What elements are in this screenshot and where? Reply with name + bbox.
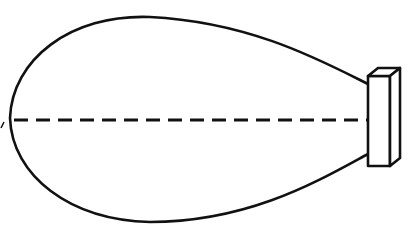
left-tick-mark bbox=[1, 122, 4, 128]
source-block-icon bbox=[368, 68, 400, 166]
